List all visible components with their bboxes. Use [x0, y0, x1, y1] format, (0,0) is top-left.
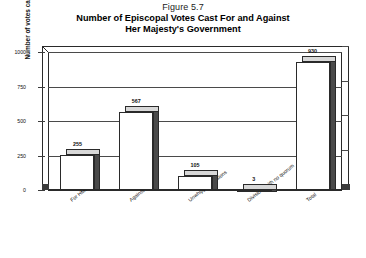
bar-front-face — [296, 62, 330, 190]
plot-wall-right-shadow — [342, 184, 350, 190]
bar[interactable] — [237, 190, 271, 192]
gridline-wall — [342, 115, 349, 116]
y-axis-tick-mark — [38, 190, 45, 191]
y-axis-tick-label: 500 — [0, 118, 26, 124]
bar-value-label: 105 — [172, 162, 218, 168]
y-axis-tick-mark — [38, 87, 45, 88]
bar-chart: Number of votes cast 02505007501000 2555… — [0, 0, 366, 258]
bar[interactable] — [296, 62, 330, 190]
bar-value-label: 930 — [290, 48, 336, 54]
bar-side-face — [153, 106, 159, 190]
bar-value-label: 3 — [231, 176, 277, 182]
bar-side-face — [330, 56, 336, 190]
x-axis-category-label: Total — [305, 191, 317, 202]
gridline-wall — [342, 81, 349, 82]
y-axis-tick-mark — [38, 52, 45, 53]
bar[interactable] — [60, 155, 94, 190]
bar-front-face — [119, 112, 153, 190]
y-axis-tick-label: 750 — [0, 84, 26, 90]
gridline-wall — [342, 150, 349, 151]
bar-front-face — [237, 190, 271, 192]
gridline-wall — [342, 46, 349, 47]
y-axis-ticks — [26, 0, 48, 258]
bar[interactable] — [119, 112, 153, 190]
y-axis-tick-label: 1000 — [0, 49, 26, 55]
y-axis-tick-label: 250 — [0, 153, 26, 159]
y-axis-tick-mark — [38, 156, 45, 157]
bar-front-face — [60, 155, 94, 190]
bar-value-label: 567 — [113, 98, 159, 104]
bar[interactable] — [178, 176, 212, 190]
bar-value-label: 255 — [54, 141, 100, 147]
y-axis-tick-mark — [38, 121, 45, 122]
bar-front-face — [178, 176, 212, 190]
y-axis-tick-label: 0 — [0, 187, 26, 193]
bar-side-face — [94, 149, 100, 190]
